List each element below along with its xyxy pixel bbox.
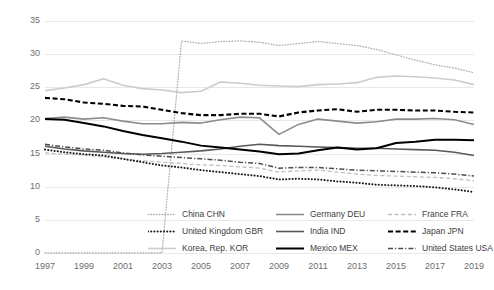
x-axis-tick-label: 2005 [181,262,221,271]
y-axis-tick-label: 20 [10,115,40,124]
legend-label: China CHN [182,210,225,219]
legend-label: United States USA [422,244,493,253]
legend-item[interactable]: Mexico MEX [276,240,358,257]
series-line [45,76,474,93]
legend-swatch-icon [388,210,416,219]
legend-label: Korea, Rep. KOR [182,244,248,253]
y-axis-tick-label: 5 [10,215,40,224]
legend-item[interactable]: United Kingdom GBR [148,223,263,240]
legend-label: Japan JPN [422,227,464,236]
y-axis-tick-label: 25 [10,82,40,91]
legend-swatch-icon [276,244,304,253]
legend-item[interactable]: Japan JPN [388,223,464,240]
x-axis: 1997199920012003200520072009201120132015… [0,262,485,278]
series-line [45,117,474,134]
legend-swatch-icon [276,210,304,219]
y-axis: 05101520253035 [8,0,40,290]
legend-label: United Kingdom GBR [182,227,263,236]
legend-label: Germany DEU [310,210,365,219]
legend-item[interactable]: Germany DEU [276,206,365,223]
y-axis-tick-label: 0 [10,248,40,257]
y-axis-tick-label: 30 [10,49,40,58]
x-axis-tick-label: 2009 [259,262,299,271]
x-axis-tick-label: 2001 [103,262,143,271]
x-axis-tick-label: 2003 [142,262,182,271]
legend-swatch-icon [148,210,176,219]
legend-row: Korea, Rep. KORMexico MEXUnited States U… [148,240,482,257]
y-axis-tick-label: 35 [10,16,40,25]
legend-swatch-icon [148,227,176,236]
x-axis-tick-label: 2019 [454,262,494,271]
x-axis-tick-label: 2011 [298,262,338,271]
y-axis-tick-label: 10 [10,182,40,191]
series-line [45,144,474,155]
x-axis-tick-label: 1999 [64,262,104,271]
x-axis-tick-label: 1997 [25,262,65,271]
y-axis-tick-label: 15 [10,149,40,158]
legend-row: United Kingdom GBRIndia INDJapan JPN [148,223,482,240]
legend-item[interactable]: United States USA [388,240,493,257]
legend-label: France FRA [422,210,468,219]
x-axis-tick-label: 2017 [415,262,455,271]
x-axis-tick-label: 2015 [376,262,416,271]
series-line [45,150,474,192]
series-line [45,98,474,117]
legend-item[interactable]: China CHN [148,206,225,223]
legend-item[interactable]: Korea, Rep. KOR [148,240,248,257]
legend-item[interactable]: France FRA [388,206,468,223]
legend-label: India IND [310,227,345,236]
legend-swatch-icon [276,227,304,236]
legend-label: Mexico MEX [310,244,358,253]
legend-swatch-icon [148,244,176,253]
legend-swatch-icon [388,227,416,236]
x-axis-tick-label: 2013 [337,262,377,271]
x-axis-tick-label: 2007 [220,262,260,271]
legend-row: China CHNGermany DEUFrance FRA [148,206,482,223]
legend-item[interactable]: India IND [276,223,345,240]
chart-legend: China CHNGermany DEUFrance FRAUnited Kin… [148,206,482,258]
legend-swatch-icon [388,244,416,253]
